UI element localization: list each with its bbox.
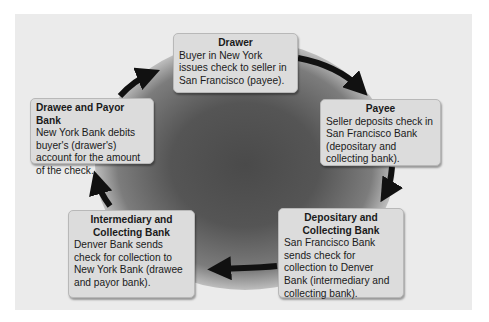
arrow-drawer-to-payee bbox=[298, 58, 360, 88]
arrow-drawee-to-drawer bbox=[120, 74, 150, 96]
node-drawee: Drawee and Payor Bank New York Bank debi… bbox=[30, 98, 154, 164]
arrow-depositary-to-intermediary bbox=[218, 266, 277, 269]
node-title: Payee bbox=[326, 103, 435, 116]
node-title: Drawer bbox=[179, 37, 292, 50]
node-drawer: Drawer Buyer in New York issues check to… bbox=[173, 33, 298, 93]
node-title: Intermediary and Collecting Bank bbox=[74, 214, 189, 239]
node-title: Drawee and Payor Bank bbox=[36, 102, 148, 127]
node-body: San Francisco Bank sends check for colle… bbox=[284, 237, 398, 300]
node-body: Denver Bank sends check for collection t… bbox=[74, 239, 189, 289]
arrow-payee-to-depositary bbox=[386, 167, 392, 193]
node-intermediary: Intermediary and Collecting Bank Denver … bbox=[68, 210, 195, 298]
node-depositary: Depositary and Collecting Bank San Franc… bbox=[278, 208, 404, 298]
arrow-intermediary-to-drawee bbox=[97, 181, 110, 206]
node-body: Buyer in New York issues check to seller… bbox=[179, 50, 292, 88]
node-body: New York Bank debits buyer's (drawer's) … bbox=[36, 127, 148, 177]
node-title: Depositary and Collecting Bank bbox=[284, 212, 398, 237]
node-payee: Payee Seller deposits check in San Franc… bbox=[320, 99, 441, 166]
node-body: Seller deposits check in San Francisco B… bbox=[326, 116, 435, 166]
